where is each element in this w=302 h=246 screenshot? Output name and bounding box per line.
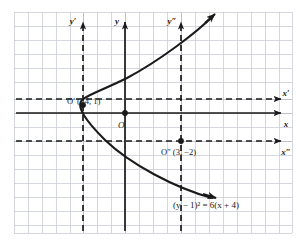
point-o-double-prime-dot xyxy=(178,138,184,144)
axis-label-x: x xyxy=(283,119,289,129)
axis-label-x-double-prime: x″ xyxy=(280,147,291,157)
axis-label-x-prime: x′ xyxy=(281,88,290,98)
label-o-prime: O′ (−4, 1) xyxy=(67,96,100,106)
axis-label-y-double-prime: y″ xyxy=(167,16,177,26)
parabola-plot: y′ y y″ x′ x x″ O′ (−4, 1) O O″ (3, −2) … xyxy=(0,0,302,246)
point-origin-dot xyxy=(122,110,128,116)
axis-label-y: y xyxy=(114,16,120,26)
label-o-double-prime: O″ (3, −2) xyxy=(161,147,196,157)
label-origin: O xyxy=(118,120,125,130)
parabola-curve xyxy=(80,14,216,198)
axis-label-y-prime: y′ xyxy=(69,16,77,26)
label-curve-equation: (y − 1)² = 6(x + 4) xyxy=(173,200,239,210)
figure-canvas: y′ y y″ x′ x x″ O′ (−4, 1) O O″ (3, −2) … xyxy=(0,0,302,246)
grid-lines xyxy=(14,12,292,233)
marked-points xyxy=(80,102,184,144)
